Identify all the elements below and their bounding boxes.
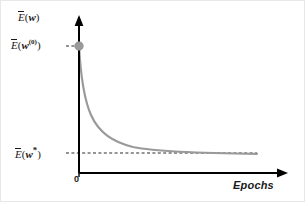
error-vs-epochs-figure: E(w) E(w(0)) E(w*) 0 Epochs (0, 0, 305, 202)
y-axis-symbol: E (18, 12, 25, 23)
x-axis-arrowhead (277, 169, 288, 178)
y-axis-arrowhead (75, 15, 84, 26)
optimal-error-close-paren: ) (37, 148, 41, 160)
y-axis-variable: w (28, 11, 35, 23)
initial-error-variable: w (21, 39, 28, 51)
plot-canvas (1, 1, 305, 202)
initial-error-label: E(w(0)) (11, 39, 41, 51)
initial-point-marker (75, 42, 83, 50)
initial-error-superscript: (0) (29, 38, 37, 46)
optimal-error-variable: w (25, 148, 32, 160)
initial-error-symbol: E (11, 40, 18, 51)
x-axis-title: Epochs (233, 180, 274, 191)
y-axis-close-paren: ) (36, 11, 40, 23)
optimal-error-label: E(w*) (15, 146, 41, 160)
initial-error-close-paren: ) (37, 39, 41, 51)
optimal-error-symbol: E (15, 149, 22, 160)
error-decay-curve (79, 46, 257, 154)
y-axis-title: E(w) (18, 12, 39, 23)
origin-tick-label: 0 (74, 175, 79, 184)
